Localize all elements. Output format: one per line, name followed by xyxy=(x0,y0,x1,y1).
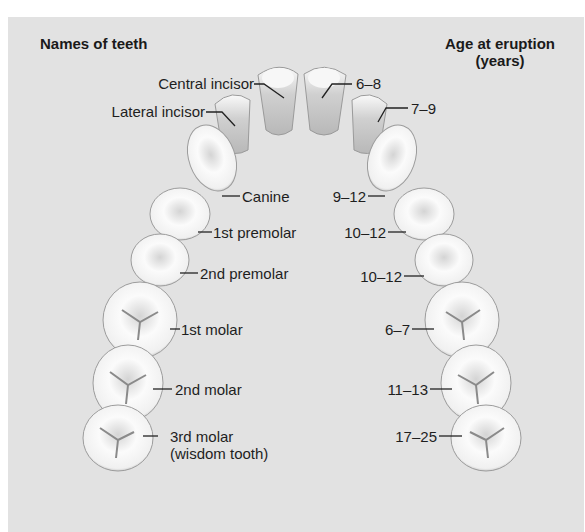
dental-arch-illustration xyxy=(0,0,585,532)
first-molar-left-icon xyxy=(103,282,177,358)
second-premolar-left-icon xyxy=(131,234,189,286)
label-second-molar: 2nd molar xyxy=(175,381,242,398)
central-incisor-right-icon xyxy=(304,67,346,135)
age-canine: 9–12 xyxy=(310,188,366,205)
label-canine: Canine xyxy=(242,188,290,205)
label-first-premolar: 1st premolar xyxy=(213,224,296,241)
age-central-incisor: 6–8 xyxy=(356,75,381,92)
age-at-eruption-heading: Age at eruption (years) xyxy=(430,35,570,69)
label-first-molar: 1st molar xyxy=(181,321,243,338)
central-incisor-left-icon xyxy=(258,67,298,135)
names-of-teeth-heading: Names of teeth xyxy=(40,35,148,52)
label-second-premolar: 2nd premolar xyxy=(200,265,288,282)
label-third-molar-line2: (wisdom tooth) xyxy=(170,445,268,462)
first-molar-right-icon xyxy=(425,282,499,358)
second-premolar-right-icon xyxy=(415,234,473,286)
age-third-molar: 17–25 xyxy=(381,428,437,445)
age-heading-line2: (years) xyxy=(430,52,570,69)
age-heading-line1: Age at eruption xyxy=(430,35,570,52)
label-lateral-incisor: Lateral incisor xyxy=(90,103,205,120)
age-second-premolar: 10–12 xyxy=(346,268,402,285)
age-lateral-incisor: 7–9 xyxy=(411,100,436,117)
third-molar-left-icon xyxy=(83,405,153,471)
age-second-molar: 11–13 xyxy=(372,381,428,398)
label-third-molar-line1: 3rd molar xyxy=(170,428,268,445)
age-first-premolar: 10–12 xyxy=(330,224,386,241)
third-molar-right-icon xyxy=(451,405,521,471)
label-third-molar: 3rd molar (wisdom tooth) xyxy=(170,428,268,462)
label-central-incisor: Central incisor xyxy=(140,75,254,92)
age-first-molar: 6–7 xyxy=(354,321,410,338)
